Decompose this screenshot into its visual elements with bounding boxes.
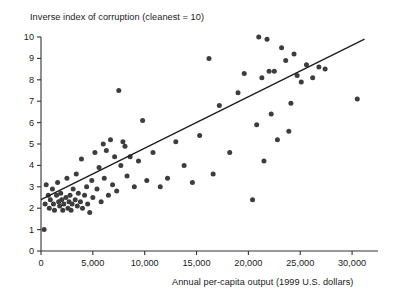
data-point bbox=[76, 191, 81, 196]
y-tick-label: 7 bbox=[6, 96, 34, 106]
data-point bbox=[50, 186, 55, 191]
data-point bbox=[52, 208, 57, 213]
data-point bbox=[80, 206, 85, 211]
data-point bbox=[51, 201, 56, 206]
data-point bbox=[61, 201, 66, 206]
data-point bbox=[132, 184, 137, 189]
data-point bbox=[43, 201, 48, 206]
data-point bbox=[236, 90, 241, 95]
data-point bbox=[283, 58, 288, 63]
data-point bbox=[120, 139, 125, 144]
data-point bbox=[267, 69, 272, 74]
data-point bbox=[118, 163, 123, 168]
data-point bbox=[279, 45, 284, 50]
data-point bbox=[70, 201, 75, 206]
x-axis-title: Annual per-capita output (1999 U.S. doll… bbox=[172, 277, 353, 287]
data-point bbox=[94, 186, 99, 191]
data-point bbox=[87, 210, 92, 215]
data-point bbox=[158, 184, 163, 189]
y-tick-label: 0 bbox=[6, 246, 34, 256]
data-point bbox=[42, 227, 47, 232]
y-axis-ticks bbox=[37, 37, 41, 251]
x-tick-label: 25,000 bbox=[286, 258, 314, 268]
data-point bbox=[355, 97, 360, 102]
data-point bbox=[68, 193, 73, 198]
data-point bbox=[71, 186, 76, 191]
x-axis-ticks bbox=[41, 251, 352, 255]
data-point bbox=[102, 176, 107, 181]
data-point bbox=[55, 180, 60, 185]
data-point bbox=[106, 193, 111, 198]
data-point bbox=[173, 139, 178, 144]
data-point bbox=[288, 101, 293, 106]
data-point bbox=[254, 122, 259, 127]
data-point bbox=[82, 193, 87, 198]
data-point bbox=[75, 204, 80, 209]
data-point bbox=[310, 75, 315, 80]
x-tick-label: 20,000 bbox=[234, 258, 262, 268]
x-tick-label: 15,000 bbox=[182, 258, 210, 268]
data-point bbox=[286, 129, 291, 134]
data-point bbox=[227, 150, 232, 155]
data-point bbox=[84, 184, 89, 189]
data-point bbox=[323, 67, 328, 72]
y-tick-label: 8 bbox=[6, 75, 34, 85]
x-tick-label: 10,000 bbox=[131, 258, 159, 268]
data-point bbox=[136, 159, 141, 164]
scatter-chart-figure: Inverse index of corruption (cleanest = … bbox=[0, 0, 401, 305]
y-tick-label: 2 bbox=[6, 203, 34, 213]
data-point bbox=[85, 201, 90, 206]
y-tick-label: 1 bbox=[6, 225, 34, 235]
data-point bbox=[104, 148, 109, 153]
data-point bbox=[108, 137, 113, 142]
data-point bbox=[114, 189, 119, 194]
data-point bbox=[256, 35, 261, 40]
data-point bbox=[64, 176, 69, 181]
data-point bbox=[99, 199, 104, 204]
data-point bbox=[140, 118, 145, 123]
data-point bbox=[58, 191, 63, 196]
x-tick-label: 30,000 bbox=[338, 258, 366, 268]
y-tick-label: 3 bbox=[6, 182, 34, 192]
data-point bbox=[110, 182, 115, 187]
data-point bbox=[182, 163, 187, 168]
data-point bbox=[265, 37, 270, 42]
data-point bbox=[217, 103, 222, 108]
data-point bbox=[211, 171, 216, 176]
data-point bbox=[261, 159, 266, 164]
data-point bbox=[206, 56, 211, 61]
data-point bbox=[90, 195, 95, 200]
data-point bbox=[299, 79, 304, 84]
data-points bbox=[42, 35, 360, 233]
data-point bbox=[250, 197, 255, 202]
data-point bbox=[197, 133, 202, 138]
data-point bbox=[125, 174, 130, 179]
data-point bbox=[74, 171, 79, 176]
data-point bbox=[48, 197, 53, 202]
data-point bbox=[122, 144, 127, 149]
trend-line bbox=[41, 39, 365, 200]
y-tick-label: 6 bbox=[6, 118, 34, 128]
data-point bbox=[44, 182, 49, 187]
data-point bbox=[292, 52, 297, 57]
data-point bbox=[92, 150, 97, 155]
data-point bbox=[112, 154, 117, 159]
y-tick-label: 5 bbox=[6, 139, 34, 149]
data-point bbox=[73, 197, 78, 202]
data-point bbox=[150, 150, 155, 155]
data-point bbox=[79, 156, 84, 161]
data-point bbox=[116, 88, 121, 93]
y-tick-label: 9 bbox=[6, 53, 34, 63]
y-tick-label: 4 bbox=[6, 160, 34, 170]
data-point bbox=[242, 71, 247, 76]
data-point bbox=[69, 208, 74, 213]
data-point bbox=[78, 199, 83, 204]
data-point bbox=[144, 178, 149, 183]
data-point bbox=[101, 142, 106, 147]
data-point bbox=[89, 178, 94, 183]
x-tick-label: 5,000 bbox=[81, 258, 104, 268]
data-point bbox=[272, 69, 277, 74]
data-point bbox=[60, 208, 65, 213]
data-point bbox=[269, 112, 274, 117]
data-point bbox=[275, 137, 280, 142]
